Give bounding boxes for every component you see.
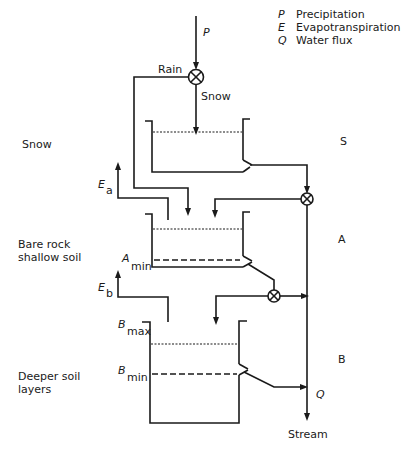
snow-layer-code: S [340,135,347,148]
evap-a-sub: a [106,184,113,197]
lower-layer-label-1: Deeper soil [18,370,80,383]
lower-outlet-upper [239,364,248,369]
upper-reservoir [145,212,274,290]
lower-tank-right-wall [239,321,247,364]
snow-junction-icon [301,193,313,205]
legend-symbol-p: P [278,8,285,21]
evap-a-symbol: E [98,178,105,191]
lower-max-symbol: B [118,318,126,331]
evap-b-symbol: E [98,281,105,294]
upper-layer-label-1: Bare rock [18,238,71,251]
snow-outlet-lower [243,167,250,172]
snowmelt-flow-arrow [250,165,307,190]
lower-min-sub: min [127,371,148,384]
evap-a: E a [98,166,168,220]
lower-layer-label-2: layers [18,383,52,396]
evap-a-arrow [118,166,168,220]
upper-junction-icon [268,290,280,302]
upper-tank-left-bottom [145,214,243,267]
lower-reservoir [142,321,304,423]
upper-min-sub: min [131,260,152,273]
lower-min-symbol: B [118,364,126,377]
snow-tank-left-bottom [145,121,243,172]
upper-layer-code: A [338,233,346,246]
percolation-arrow [216,296,268,321]
precipitation-input: P Rain Snow [134,16,231,212]
lower-tank-left-bottom [142,322,239,423]
upper-min-symbol: A [121,252,130,265]
snow-reservoir [145,119,307,190]
rain-snow-splitter-icon [189,70,204,85]
legend-symbol-e: E [278,21,285,34]
upper-tank-right-wall [243,212,250,256]
evap-b-arrow [118,274,168,322]
snow-layer-label: Snow [22,138,52,151]
upper-outlet-path [248,264,274,290]
legend-label-precipitation: Precipitation [296,8,365,21]
evap-b-sub: b [106,287,113,300]
rain-label: Rain [158,63,182,76]
evap-b: E b [98,274,168,322]
flux-label: Q [316,388,325,401]
snow-input-label: Snow [201,90,231,103]
hydrological-model-diagram: P Precipitation E Evapotranspiration Q W… [0,0,402,454]
snow-tank-right-wall [243,119,250,160]
legend-label-evapotranspiration: Evapotranspiration [296,21,401,34]
stream-label: Stream [288,428,328,441]
legend: P Precipitation E Evapotranspiration Q W… [278,8,401,47]
upper-outlet-upper [243,256,252,261]
legend-symbol-q: Q [278,34,287,47]
snowmelt-to-upper-arrow [215,199,301,214]
upper-layer-label-2: shallow soil [18,251,81,264]
lower-max-sub: max [127,325,151,338]
baseflow-arrow [244,372,304,387]
legend-label-water-flux: Water flux [296,34,353,47]
precipitation-label: P [203,26,210,39]
rain-flow-arrow [134,77,189,212]
lower-layer-code: B [338,353,346,366]
